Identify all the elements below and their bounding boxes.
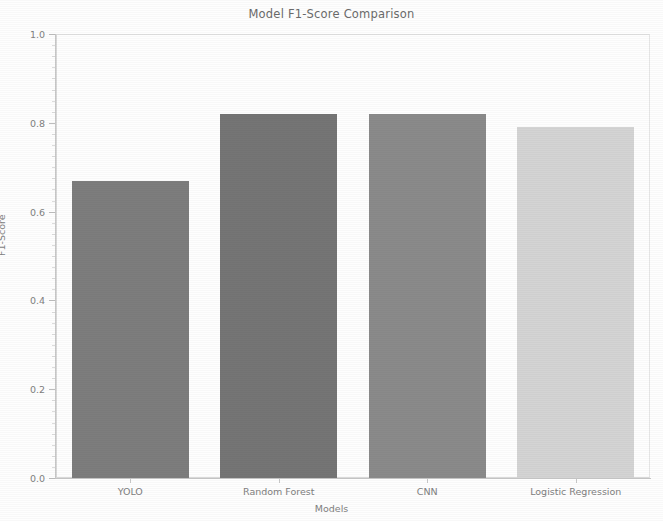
plot-area xyxy=(56,34,650,478)
y-minor-tick-mark xyxy=(52,156,55,157)
y-minor-tick-mark xyxy=(52,234,55,235)
y-tick-mark xyxy=(49,300,55,301)
y-tick-mark xyxy=(49,212,55,213)
y-minor-tick-mark xyxy=(52,423,55,424)
y-minor-tick-mark xyxy=(52,400,55,401)
y-minor-tick-mark xyxy=(52,334,55,335)
y-minor-tick-mark xyxy=(52,367,55,368)
y-tick-label: 1.0 xyxy=(5,29,45,40)
y-minor-tick-mark xyxy=(52,378,55,379)
y-minor-tick-mark xyxy=(52,312,55,313)
y-minor-tick-mark xyxy=(52,67,55,68)
y-minor-tick-mark xyxy=(52,223,55,224)
x-axis-line xyxy=(55,478,651,479)
y-minor-tick-mark xyxy=(52,56,55,57)
y-minor-tick-mark xyxy=(52,278,55,279)
y-minor-tick-mark xyxy=(52,201,55,202)
y-tick-mark xyxy=(49,34,55,35)
y-minor-tick-mark xyxy=(52,112,55,113)
x-tick-label: CNN xyxy=(417,486,438,497)
y-tick-mark xyxy=(49,389,55,390)
bar xyxy=(517,127,634,478)
bar xyxy=(72,181,189,478)
y-minor-tick-mark xyxy=(52,145,55,146)
x-tick-mark xyxy=(279,479,280,483)
chart-title: Model F1-Score Comparison xyxy=(0,7,663,21)
chart-figure: Model F1-Score Comparison F1-Score 0.00.… xyxy=(0,0,663,521)
y-minor-tick-mark xyxy=(52,256,55,257)
y-minor-tick-mark xyxy=(52,90,55,91)
y-tick-mark xyxy=(49,478,55,479)
y-minor-tick-mark xyxy=(52,267,55,268)
x-axis-label: Models xyxy=(0,503,663,514)
y-minor-tick-mark xyxy=(52,78,55,79)
y-tick-label: 0.2 xyxy=(5,384,45,395)
y-minor-tick-mark xyxy=(52,445,55,446)
x-tick-mark xyxy=(576,479,577,483)
y-tick-label: 0.8 xyxy=(5,117,45,128)
y-tick-label: 0.0 xyxy=(5,473,45,484)
x-tick-label: Random Forest xyxy=(243,486,315,497)
y-minor-tick-mark xyxy=(52,178,55,179)
y-axis-label: F1-Score xyxy=(0,214,7,256)
y-minor-tick-mark xyxy=(52,167,55,168)
y-minor-tick-mark xyxy=(52,323,55,324)
x-tick-mark xyxy=(130,479,131,483)
y-minor-tick-mark xyxy=(52,356,55,357)
y-minor-tick-mark xyxy=(52,45,55,46)
x-tick-mark xyxy=(427,479,428,483)
y-minor-tick-mark xyxy=(52,467,55,468)
y-minor-tick-mark xyxy=(52,289,55,290)
y-tick-mark xyxy=(49,123,55,124)
y-minor-tick-mark xyxy=(52,189,55,190)
y-tick-label: 0.6 xyxy=(5,206,45,217)
y-minor-tick-mark xyxy=(52,101,55,102)
bar xyxy=(369,114,486,478)
y-minor-tick-mark xyxy=(52,345,55,346)
y-minor-tick-mark xyxy=(52,411,55,412)
y-minor-tick-mark xyxy=(52,245,55,246)
bar xyxy=(220,114,337,478)
x-tick-label: YOLO xyxy=(118,486,143,497)
x-tick-label: Logistic Regression xyxy=(530,486,621,497)
y-minor-tick-mark xyxy=(52,456,55,457)
y-minor-tick-mark xyxy=(52,434,55,435)
y-tick-label: 0.4 xyxy=(5,295,45,306)
y-minor-tick-mark xyxy=(52,134,55,135)
